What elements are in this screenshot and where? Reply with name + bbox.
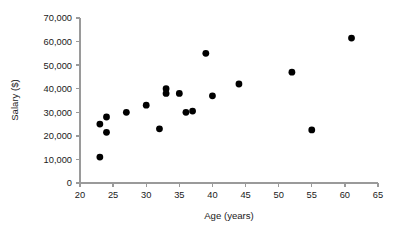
y-tick-label: 40,000 (44, 84, 72, 94)
y-tick-label: 50,000 (44, 61, 72, 71)
y-tick-label: 0 (67, 178, 72, 188)
scatter-chart: 010,00020,00030,00040,00050,00060,00070,… (0, 0, 395, 234)
y-axis: 010,00020,00030,00040,00050,00060,00070,… (44, 13, 80, 188)
data-point (96, 121, 103, 128)
x-axis: 20253035404550556065 (75, 183, 383, 200)
x-tick-label: 25 (108, 190, 118, 200)
data-point (348, 35, 355, 42)
x-tick-label: 45 (240, 190, 250, 200)
data-point (163, 90, 170, 97)
data-point (103, 129, 110, 136)
x-tick-label: 60 (340, 190, 350, 200)
data-point (96, 154, 103, 161)
data-point (123, 109, 130, 116)
data-point (189, 108, 196, 115)
x-tick-label: 55 (307, 190, 317, 200)
data-points-layer (96, 35, 354, 161)
x-tick-label: 20 (75, 190, 85, 200)
data-point (143, 102, 150, 109)
x-tick-label: 35 (174, 190, 184, 200)
data-point (236, 81, 243, 88)
data-point (202, 50, 209, 57)
x-tick-label: 50 (273, 190, 283, 200)
y-tick-label: 20,000 (44, 131, 72, 141)
data-point (289, 69, 296, 76)
y-axis-title: Salary ($) (9, 79, 20, 121)
data-point (156, 125, 163, 132)
data-point (176, 90, 183, 97)
y-tick-label: 70,000 (44, 13, 72, 23)
x-axis-title: Age (years) (204, 210, 254, 221)
y-tick-label: 60,000 (44, 37, 72, 47)
data-point (308, 127, 315, 134)
plot-area: 010,00020,00030,00040,00050,00060,00070,… (0, 0, 395, 234)
y-tick-label: 10,000 (44, 155, 72, 165)
x-tick-label: 65 (373, 190, 383, 200)
x-tick-label: 30 (141, 190, 151, 200)
y-tick-label: 30,000 (44, 108, 72, 118)
data-point (209, 92, 216, 99)
data-point (183, 109, 190, 116)
x-tick-label: 40 (207, 190, 217, 200)
data-point (103, 114, 110, 121)
